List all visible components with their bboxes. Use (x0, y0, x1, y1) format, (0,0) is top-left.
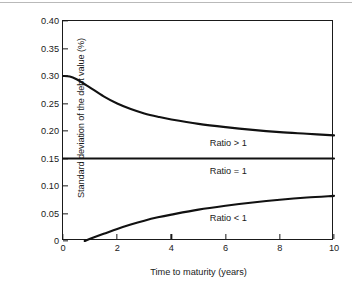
series-annotation-label: Ratio = 1 (210, 166, 247, 176)
y-tick-label: 0.15 (29, 154, 59, 164)
y-tick-label: 0.05 (29, 209, 59, 219)
y-tick-label: 0.25 (29, 99, 59, 109)
x-tick-label: 4 (159, 243, 183, 253)
x-tick-label: 6 (214, 243, 238, 253)
series-layer (63, 21, 334, 241)
x-axis-title: Time to maturity (years) (63, 267, 334, 277)
x-tick-label: 8 (268, 243, 292, 253)
series-annotation-label: Ratio > 1 (210, 138, 247, 148)
x-tick-label: 0 (51, 243, 75, 253)
y-tick-label: 0.40 (29, 16, 59, 26)
x-tick-label: 2 (105, 243, 129, 253)
y-tick-label: 0.20 (29, 126, 59, 136)
y-tick-label: 0.30 (29, 71, 59, 81)
series-annotation-label: Ratio < 1 (210, 213, 247, 223)
plot-area: Standard deviation of the debt value (%)… (62, 20, 333, 240)
y-tick-label: 0.35 (29, 44, 59, 54)
series-line-ratio-gt-1 (63, 76, 334, 135)
x-tick-label: 10 (322, 243, 346, 253)
y-tick-label: 0.10 (29, 181, 59, 191)
chart-figure: Standard deviation of the debt value (%)… (0, 0, 352, 286)
